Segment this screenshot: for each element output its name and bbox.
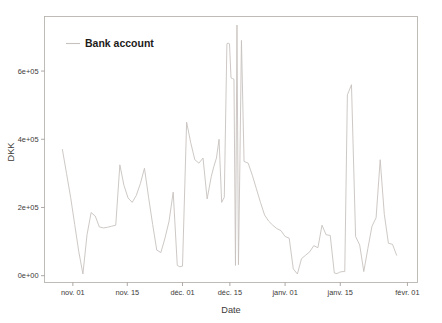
y-axis-title: DKK [6, 142, 16, 162]
chart-container: 0e+002e+054e+056e+05 nov. 01nov. 15déc. … [0, 0, 442, 323]
series-line-bank-account [62, 25, 396, 274]
y-axis-ticks: 0e+002e+054e+056e+05 [18, 67, 45, 281]
y-tick-label: 4e+05 [18, 135, 39, 144]
x-axis-ticks: nov. 01nov. 15déc. 01déc. 15janv. 01janv… [61, 283, 420, 298]
x-tick-label: nov. 01 [61, 288, 85, 297]
x-tick-label: nov. 15 [115, 288, 139, 297]
x-axis-title: Date [221, 305, 240, 315]
x-tick-label: déc. 01 [170, 288, 194, 297]
y-tick-label: 0e+00 [18, 271, 39, 280]
y-tick-label: 6e+05 [18, 67, 39, 76]
x-tick-label: févr. 01 [395, 288, 419, 297]
x-tick-label: janv. 01 [271, 288, 297, 297]
plot-frame [45, 17, 418, 283]
line-chart: 0e+002e+054e+056e+05 nov. 01nov. 15déc. … [0, 0, 442, 323]
y-tick-label: 2e+05 [18, 203, 39, 212]
chart-legend: Bank account [66, 37, 154, 49]
x-tick-label: janv. 15 [327, 288, 353, 297]
x-tick-label: déc. 15 [218, 288, 242, 297]
series-group [62, 25, 396, 274]
legend-label-bank-account: Bank account [85, 37, 154, 49]
